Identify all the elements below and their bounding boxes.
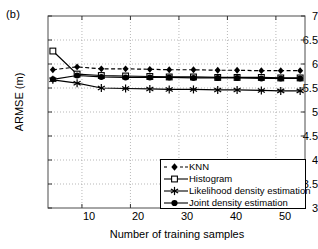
legend-marker-circle-icon xyxy=(163,197,189,209)
legend-label: Joint density estimation xyxy=(189,198,288,208)
legend-label: KNN xyxy=(189,162,209,172)
legend-marker-square-icon xyxy=(163,173,189,185)
legend-item-joint: Joint density estimation xyxy=(163,197,305,209)
legend-item-knn: KNN xyxy=(163,161,305,173)
plot-canvas xyxy=(0,0,318,249)
legend-item-likelihood: Likelihood density estimation xyxy=(163,185,305,197)
legend-item-histogram: Histogram xyxy=(163,173,305,185)
legend-marker-asterisk-icon xyxy=(163,185,189,197)
legend-label: Likelihood density estimation xyxy=(189,186,310,196)
figure-panel: (b) ARMSE (m) Number of training samples… xyxy=(0,0,318,249)
legend-marker-diamond-icon xyxy=(163,161,189,173)
legend: KNN Histogram Likelihood density estimat… xyxy=(160,159,306,209)
legend-label: Histogram xyxy=(189,174,232,184)
